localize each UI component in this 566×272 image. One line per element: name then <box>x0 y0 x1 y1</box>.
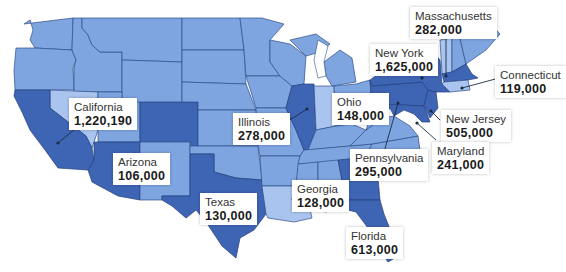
state-oregon[interactable] <box>14 48 76 90</box>
state-name: Ohio <box>337 95 384 109</box>
state-north-dakota[interactable] <box>182 18 244 50</box>
label-texas: Texas 130,000 <box>200 193 257 225</box>
label-connecticut: Connecticut 119,000 <box>495 66 566 98</box>
label-arizona: Arizona 106,000 <box>113 153 170 185</box>
state-value: 106,000 <box>118 169 165 183</box>
state-name: New York <box>375 46 433 60</box>
label-ohio: Ohio 148,000 <box>332 93 389 125</box>
state-washington[interactable] <box>24 18 73 50</box>
state-south-dakota[interactable] <box>182 50 246 84</box>
label-maryland: Maryland 241,000 <box>432 142 489 174</box>
state-name: Illinois <box>238 115 285 129</box>
state-value: 505,000 <box>446 126 506 140</box>
state-name: Texas <box>205 195 252 209</box>
state-value: 241,000 <box>437 158 484 172</box>
state-value: 130,000 <box>205 209 252 223</box>
label-california: California 1,220,190 <box>69 98 137 130</box>
state-value: 1,220,190 <box>74 114 132 128</box>
state-name: Connecticut <box>500 68 561 82</box>
label-pennsylvania: Pennsylvania 295,000 <box>350 149 428 181</box>
state-name: Arizona <box>118 155 165 169</box>
state-value: 295,000 <box>355 165 423 179</box>
state-value: 282,000 <box>415 23 492 37</box>
state-name: Pennsylvania <box>355 151 423 165</box>
state-value: 613,000 <box>351 243 398 257</box>
state-name: New Jersey <box>446 112 506 126</box>
state-name: Georgia <box>297 182 344 196</box>
state-name: Maryland <box>437 144 484 158</box>
leader-maryland <box>417 123 436 140</box>
state-value: 119,000 <box>500 82 561 96</box>
label-new-jersey: New Jersey 505,000 <box>441 110 511 142</box>
state-value: 278,000 <box>238 129 285 143</box>
state-value: 1,625,000 <box>375 60 433 74</box>
state-colorado[interactable] <box>140 102 198 148</box>
state-name: California <box>74 100 132 114</box>
label-georgia: Georgia 128,000 <box>292 180 349 212</box>
state-value: 148,000 <box>337 109 384 123</box>
label-illinois: Illinois 278,000 <box>233 113 290 145</box>
state-value: 128,000 <box>297 196 344 210</box>
label-new-york: New York 1,625,000 <box>370 44 438 76</box>
state-name: Massachusetts <box>415 9 492 23</box>
state-name: Florida <box>351 229 398 243</box>
label-massachusetts: Massachusetts 282,000 <box>410 7 497 39</box>
label-florida: Florida 613,000 <box>346 227 403 259</box>
